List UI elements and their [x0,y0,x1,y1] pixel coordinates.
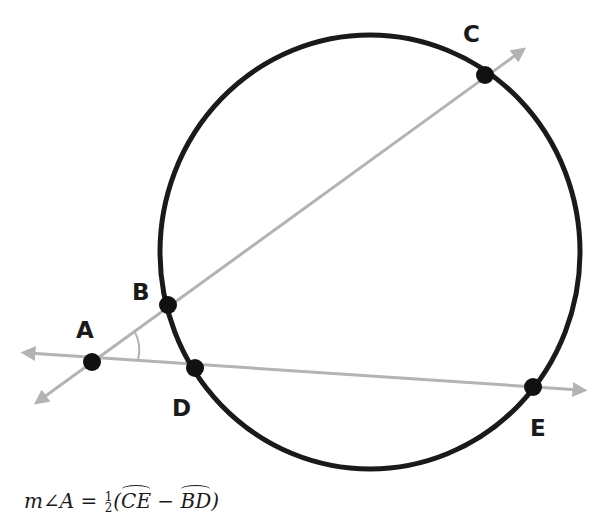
secant-ray-ade [28,353,580,390]
formula-lhs: m∠A = [24,489,104,513]
point-b [159,296,177,314]
circle [160,35,580,469]
label-e: E [530,415,546,441]
point-e [524,378,542,396]
secant-diagram: A B C D E [0,0,609,521]
label-b: B [132,279,150,305]
point-a [83,353,101,371]
arc-ce: CE [121,489,151,513]
label-c: C [463,21,480,47]
angle-a-mark [134,330,139,360]
secant-ray-abc [40,52,520,400]
label-d: D [172,395,191,421]
arc-bd: BD [180,489,211,513]
label-a: A [76,317,94,343]
point-c [476,66,494,84]
point-d [186,359,204,377]
fraction-one-half: 12 [105,492,113,514]
angle-formula: m∠A = 12(CE − BD) [24,489,219,514]
